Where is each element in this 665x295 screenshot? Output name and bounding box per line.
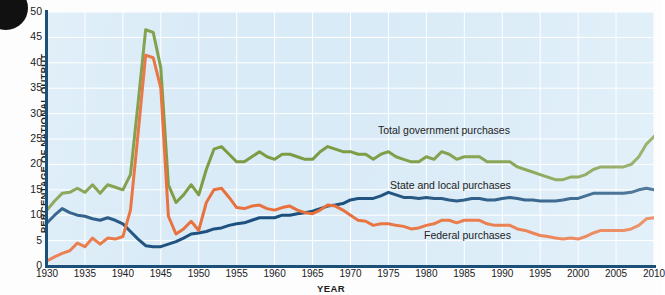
y-axis-tick-label: 20 [2, 157, 42, 169]
x-axis-tick-labels: 1930193519401945195019551960196519701975… [47, 268, 654, 284]
x-axis-tick-label: 1955 [226, 268, 248, 279]
x-axis-tick-label: 1935 [74, 268, 96, 279]
series-label-total-government: Total government purchases [378, 124, 510, 136]
y-axis-tick-label: 40 [2, 56, 42, 68]
series-label-federal: Federal purchases [424, 229, 511, 241]
y-axis-tick-label: 15 [2, 183, 42, 195]
x-axis-tick-label: 1985 [453, 268, 475, 279]
y-axis-tick-label: 5 [2, 234, 42, 246]
y-axis-tick-label: 25 [2, 132, 42, 144]
x-axis-tick-label: 1930 [36, 268, 58, 279]
y-axis-tick-label: 10 [2, 208, 42, 220]
x-axis-tick-label: 1965 [301, 268, 323, 279]
x-axis-tick-label: 2005 [605, 268, 627, 279]
x-axis-tick-label: 1970 [339, 268, 361, 279]
x-axis-tick-label: 1980 [415, 268, 437, 279]
x-axis-tick-label: 2010 [643, 268, 665, 279]
x-axis-title: YEAR [0, 283, 662, 294]
x-axis-tick-label: 1945 [150, 268, 172, 279]
y-axis-tick-label: 30 [2, 107, 42, 119]
x-axis-tick-label: 1940 [112, 268, 134, 279]
x-axis-tick-label: 1975 [377, 268, 399, 279]
chart-svg [47, 12, 654, 266]
x-axis-tick-label: 1960 [264, 268, 286, 279]
y-axis-tick-label: 35 [2, 81, 42, 93]
plot-area [47, 12, 654, 266]
x-axis-tick-label: 2000 [567, 268, 589, 279]
x-axis-tick-label: 1995 [529, 268, 551, 279]
x-axis-tick-label: 1950 [188, 268, 210, 279]
series-label-state-and-local: State and local purchases [390, 179, 511, 191]
y-axis-tick-label: 45 [2, 30, 42, 42]
x-axis-tick-label: 1990 [491, 268, 513, 279]
y-axis-line [45, 10, 48, 268]
y-axis-tick-labels: 05101520253035404550 [0, 12, 42, 266]
